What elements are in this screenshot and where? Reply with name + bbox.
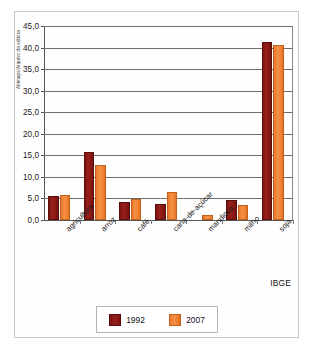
gridline bbox=[44, 134, 293, 135]
source-label: IBGE bbox=[270, 278, 291, 288]
bar-café-1992 bbox=[119, 202, 130, 220]
legend-item-2007: 2007 bbox=[169, 314, 205, 326]
y-axis-tick-label: 5,0 bbox=[7, 194, 39, 203]
gridline bbox=[44, 26, 293, 27]
y-axis-tick-label: 40,0 bbox=[7, 43, 39, 52]
bar-café-2007 bbox=[131, 199, 142, 220]
y-axis-tick-label: 15,0 bbox=[7, 151, 39, 160]
y-axis-tick-label: 20,0 bbox=[7, 129, 39, 138]
gridline bbox=[44, 177, 293, 178]
plot-area bbox=[44, 26, 293, 220]
legend-swatch-2007 bbox=[169, 314, 181, 326]
gridline bbox=[44, 48, 293, 49]
y-axis-tick-mark bbox=[41, 220, 45, 221]
legend-label-1992: 1992 bbox=[126, 315, 145, 325]
legend-item-1992: 1992 bbox=[109, 314, 145, 326]
gridline bbox=[44, 155, 293, 156]
bar-cana-de-açúcar-2007 bbox=[167, 192, 178, 220]
legend-label-2007: 2007 bbox=[186, 315, 205, 325]
bar-agricultura-1992 bbox=[48, 196, 59, 220]
bar-agricultura-2007 bbox=[60, 195, 71, 220]
gridline bbox=[44, 112, 293, 113]
bar-soja-2007 bbox=[273, 45, 284, 220]
bar-soja-1992 bbox=[262, 42, 273, 220]
y-axis-tick-label: 10,0 bbox=[7, 172, 39, 181]
y-axis-tick-label: 25,0 bbox=[7, 108, 39, 117]
y-axis-tick-label: 45,0 bbox=[7, 22, 39, 31]
bar-cana-de-açúcar-1992 bbox=[155, 204, 166, 220]
bar-milho-2007 bbox=[238, 205, 249, 220]
bar-mandioca-2007 bbox=[202, 215, 213, 220]
y-axis-tick-label: 30,0 bbox=[7, 86, 39, 95]
gridline bbox=[44, 91, 293, 92]
legend-swatch-1992 bbox=[109, 314, 121, 326]
y-axis-tick-label: 0,0 bbox=[7, 216, 39, 225]
gridline bbox=[44, 69, 293, 70]
bar-arroz-2007 bbox=[95, 165, 106, 220]
y-axis-tick-label: 35,0 bbox=[7, 65, 39, 74]
chart-legend: 1992 2007 bbox=[96, 306, 218, 333]
chart-figure: Abimaps/Arquivo da editora 0,05,010,015,… bbox=[0, 0, 311, 360]
